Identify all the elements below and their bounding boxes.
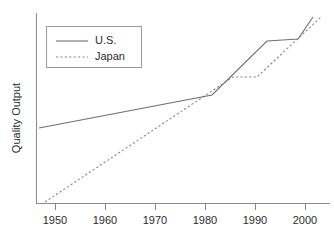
x-tick-label-2000: 2000 <box>293 214 317 226</box>
x-axis-tick-labels: 1950 1960 1970 1980 1990 2000 <box>43 214 317 226</box>
y-axis-title: Quality Output <box>10 83 22 153</box>
legend: U.S. Japan <box>47 27 142 68</box>
line-chart: 1950 1960 1970 1980 1990 2000 Quality Ou… <box>0 0 334 244</box>
legend-box <box>47 27 142 68</box>
x-tick-label-1990: 1990 <box>243 214 267 226</box>
legend-label-japan: Japan <box>95 50 125 62</box>
x-tick-label-1970: 1970 <box>143 214 167 226</box>
x-axis-ticks <box>56 204 306 210</box>
x-tick-label-1980: 1980 <box>193 214 217 226</box>
x-tick-label-1960: 1960 <box>93 214 117 226</box>
chart-canvas: 1950 1960 1970 1980 1990 2000 Quality Ou… <box>0 0 334 244</box>
x-tick-label-1950: 1950 <box>43 214 67 226</box>
legend-label-us: U.S. <box>95 34 116 46</box>
